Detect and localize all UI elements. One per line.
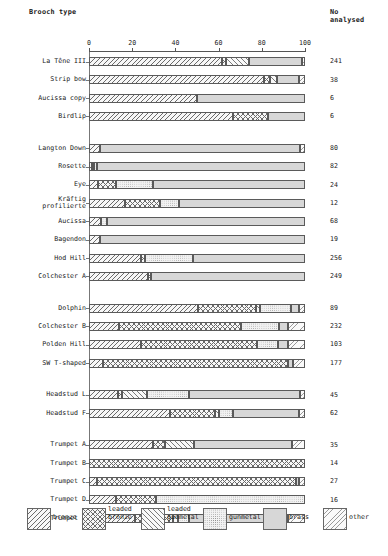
bar-segment-brass bbox=[291, 304, 299, 313]
category-label: Colchester A bbox=[38, 273, 86, 280]
category-label-line: Langton Down bbox=[38, 145, 86, 152]
stacked-bar bbox=[89, 235, 305, 244]
x-tick bbox=[175, 48, 176, 52]
bar-segment-leaded_bronze bbox=[98, 180, 116, 189]
category-label-line: Dolphin bbox=[58, 305, 86, 312]
bar-segment-bronze bbox=[89, 477, 97, 486]
bar-segment-brass bbox=[268, 112, 305, 121]
analysed-count: 12 bbox=[330, 200, 338, 207]
category-label: Eye bbox=[74, 181, 86, 188]
category-label-line: Aucissa bbox=[58, 218, 86, 225]
legend-swatch-leaded_bronze bbox=[82, 508, 106, 530]
stacked-bar bbox=[89, 495, 305, 504]
x-tick bbox=[219, 48, 220, 52]
bar-segment-gunmetal bbox=[145, 254, 193, 263]
category-label: Aucissa bbox=[58, 218, 86, 225]
analysed-count: 80 bbox=[330, 145, 338, 152]
bar-segment-other bbox=[299, 409, 305, 418]
legend-label-bronze: bronze bbox=[53, 514, 77, 522]
category-label-line: Headstud F bbox=[46, 410, 86, 417]
analysed-count: 24 bbox=[330, 182, 338, 189]
bar-segment-brass bbox=[279, 322, 288, 331]
bar-segment-brass bbox=[151, 272, 305, 281]
x-tick-label: 100 bbox=[299, 39, 311, 47]
analysed-count: 38 bbox=[330, 77, 338, 84]
analysed-count: 27 bbox=[330, 478, 338, 485]
bar-segment-leaded_bronze bbox=[116, 495, 156, 504]
category-label: Polden Hill bbox=[42, 341, 86, 348]
bar-segment-other bbox=[300, 144, 305, 153]
bar-segment-gunmetal bbox=[241, 322, 279, 331]
stacked-bar bbox=[89, 254, 305, 263]
stacked-bar bbox=[89, 162, 305, 171]
bar-segment-bronze bbox=[89, 180, 98, 189]
category-label: Colchester B bbox=[38, 323, 86, 330]
bar-segment-other bbox=[302, 57, 305, 66]
analysed-count: 62 bbox=[330, 410, 338, 417]
stacked-bar bbox=[89, 112, 305, 121]
analysed-count: 249 bbox=[330, 273, 342, 280]
category-label: Trumpet D bbox=[50, 496, 86, 503]
category-label: Rosette bbox=[58, 163, 86, 170]
bar-segment-bronze bbox=[89, 112, 233, 121]
bar-segment-bronze bbox=[89, 409, 170, 418]
bar-segment-bronze bbox=[89, 144, 100, 153]
bar-segment-leaded_bronze bbox=[103, 359, 288, 368]
bar-segment-gunmetal bbox=[116, 180, 153, 189]
bar-segment-leaded_bronze bbox=[264, 75, 270, 84]
bar-segment-other bbox=[293, 359, 305, 368]
stacked-bar bbox=[89, 57, 305, 66]
legend-label-gunmetal: gunmetal bbox=[229, 514, 261, 522]
bar-segment-leaded_bronze bbox=[198, 304, 256, 313]
stacked-bar bbox=[89, 440, 305, 449]
legend-label-line: gunmetal bbox=[167, 514, 199, 522]
x-tick bbox=[262, 48, 263, 52]
stacked-bar bbox=[89, 322, 305, 331]
category-label: Kräftigprofilierte bbox=[42, 196, 86, 211]
category-label: Trumpet C bbox=[50, 478, 86, 485]
category-label-line: Aucissa copy bbox=[38, 95, 86, 102]
category-label-line: Rosette bbox=[58, 163, 86, 170]
category-label: Dolphin bbox=[58, 305, 86, 312]
bar-segment-brass bbox=[100, 144, 300, 153]
bar-segment-gunmetal bbox=[160, 199, 178, 208]
bar-segment-leaded_gunmetal bbox=[122, 390, 147, 399]
bar-segment-leaded_bronze bbox=[170, 409, 215, 418]
x-tick bbox=[305, 48, 306, 52]
bar-segment-bronze bbox=[89, 217, 101, 226]
bar-segment-bronze bbox=[89, 235, 100, 244]
bar-segment-bronze bbox=[89, 75, 264, 84]
bar-segment-leaded_bronze bbox=[141, 340, 258, 349]
analysed-count: 232 bbox=[330, 323, 342, 330]
legend-label-line: bronze bbox=[108, 514, 132, 522]
category-label-line: Hod Hill bbox=[54, 255, 86, 262]
category-label-line: Trumpet A bbox=[50, 441, 86, 448]
analysed-count: 241 bbox=[330, 58, 342, 65]
category-label: Strip bow bbox=[50, 76, 86, 83]
category-label: Langton Down bbox=[38, 145, 86, 152]
bar-segment-brass bbox=[249, 57, 302, 66]
bar-segment-bronze bbox=[89, 359, 103, 368]
bar-segment-other bbox=[288, 340, 305, 349]
bar-segment-leaded_bronze bbox=[233, 112, 269, 121]
bar-segment-bronze bbox=[89, 272, 148, 281]
bar-segment-leaded_bronze bbox=[153, 440, 165, 449]
stacked-bar bbox=[89, 199, 305, 208]
legend-label-leaded_gunmetal: leadedgunmetal bbox=[167, 506, 199, 522]
stacked-bar bbox=[89, 359, 305, 368]
analysed-count: 256 bbox=[330, 255, 342, 262]
bar-segment-brass bbox=[193, 254, 305, 263]
analysed-count: 16 bbox=[330, 497, 338, 504]
bar-segment-bronze bbox=[89, 495, 116, 504]
category-label: Headstud F bbox=[46, 410, 86, 417]
analysed-count: 6 bbox=[330, 113, 334, 120]
stacked-bar bbox=[89, 94, 305, 103]
legend-swatch-brass bbox=[263, 508, 287, 530]
bar-segment-other bbox=[299, 477, 305, 486]
category-label-line: Colchester B bbox=[38, 323, 86, 330]
bar-segment-leaded_gunmetal bbox=[226, 57, 249, 66]
category-label-line: SW T-shaped bbox=[42, 360, 86, 367]
bar-segment-bronze bbox=[89, 322, 119, 331]
bar-segment-gunmetal bbox=[156, 495, 305, 504]
category-label-line: profilierte bbox=[42, 203, 86, 210]
